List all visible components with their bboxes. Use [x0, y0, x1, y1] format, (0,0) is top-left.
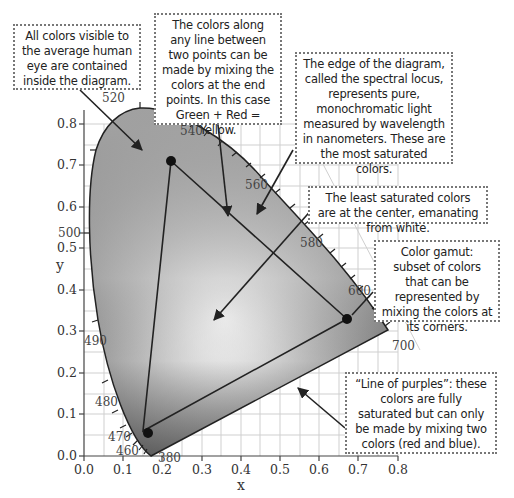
gamut-vertex-green [166, 156, 176, 166]
callout-color-gamut: Color gamut: subset of colors that can b… [374, 240, 500, 322]
callout-least-saturated: The least saturated colors are at the ce… [308, 186, 488, 224]
svg-text:480: 480 [95, 395, 118, 409]
callout-visible-colors: All colors visible to the average human … [13, 24, 141, 90]
svg-text:490: 490 [84, 334, 107, 348]
svg-text:0.4: 0.4 [231, 462, 251, 477]
callout-mixing-line: The colors along any line between two po… [154, 13, 282, 125]
svg-text:0.1: 0.1 [57, 406, 77, 421]
svg-text:470: 470 [108, 430, 131, 444]
svg-text:560: 560 [245, 178, 268, 192]
svg-text:0.6: 0.6 [309, 462, 329, 477]
svg-text:600: 600 [348, 284, 371, 298]
y-axis-title: y [55, 257, 64, 273]
svg-text:0.8: 0.8 [57, 116, 77, 131]
svg-text:0.3: 0.3 [192, 462, 212, 477]
svg-text:0.6: 0.6 [57, 199, 77, 214]
svg-text:700: 700 [392, 339, 415, 353]
gamut-vertex-red [342, 314, 352, 324]
svg-text:580: 580 [300, 236, 323, 250]
x-axis-tick-labels: 0.0 0.1 0.2 0.3 0.4 0.5 0.6 0.7 0.8 [74, 462, 408, 477]
svg-text:0.8: 0.8 [388, 462, 408, 477]
svg-text:0.3: 0.3 [57, 323, 77, 338]
svg-text:0.5: 0.5 [270, 462, 290, 477]
svg-text:500: 500 [58, 226, 81, 240]
svg-text:0.7: 0.7 [348, 462, 368, 477]
svg-text:0.5: 0.5 [57, 240, 77, 255]
svg-text:0.7: 0.7 [57, 157, 77, 172]
svg-text:380: 380 [158, 451, 181, 465]
callout-line-of-purples: “Line of purples”: these colors are full… [345, 372, 497, 454]
svg-text:0.0: 0.0 [57, 448, 77, 463]
svg-text:460: 460 [116, 444, 139, 458]
y-axis-tick-labels: 0.0 0.1 0.2 0.3 0.4 0.5 0.6 0.7 0.8 [57, 116, 77, 463]
svg-text:0.2: 0.2 [57, 365, 77, 380]
gamut-vertex-blue [143, 428, 153, 438]
callout-spectral-locus: The edge of the diagram, called the spec… [295, 52, 453, 164]
svg-text:0.4: 0.4 [57, 282, 77, 297]
svg-text:0.1: 0.1 [113, 462, 133, 477]
x-axis-title: x [237, 477, 245, 493]
svg-text:520: 520 [102, 91, 125, 105]
svg-text:0.0: 0.0 [74, 462, 94, 477]
